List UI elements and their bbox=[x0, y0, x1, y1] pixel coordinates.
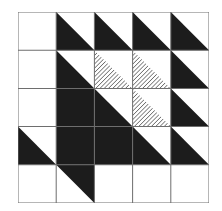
quilt-cell-dark-tri-ur bbox=[56, 165, 94, 203]
quilt-cell-hatch-tri bbox=[133, 88, 171, 126]
quilt-cell-dark-tri bbox=[171, 127, 209, 165]
quilt-cell-dark-full bbox=[56, 88, 94, 126]
quilt-cell-dark-tri bbox=[171, 88, 209, 126]
quilt-cell-dark-tri bbox=[171, 50, 209, 88]
quilt-cell-dark-tri bbox=[133, 12, 171, 50]
quilt-cell-dark-tri bbox=[171, 12, 209, 50]
quilt-cell-dark-tri bbox=[56, 12, 94, 50]
quilt-cell-dark-tri bbox=[56, 50, 94, 88]
quilt-block-diagram bbox=[18, 12, 209, 203]
quilt-cell-dark-tri bbox=[94, 88, 132, 126]
quilt-cell-dark-full bbox=[94, 127, 132, 165]
quilt-cell-dark-full bbox=[56, 127, 94, 165]
quilt-cell-dark-tri bbox=[18, 127, 56, 165]
quilt-cell-dark-tri bbox=[94, 12, 132, 50]
quilt-cell-hatch-tri bbox=[94, 50, 132, 88]
quilt-cell-hatch-tri bbox=[133, 50, 171, 88]
quilt-cell-dark-tri bbox=[133, 127, 171, 165]
